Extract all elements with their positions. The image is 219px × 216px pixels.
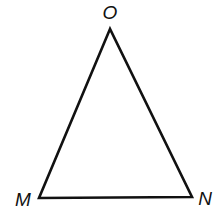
vertex-label-o: O [103, 2, 118, 23]
vertex-label-n: N [198, 188, 212, 209]
vertex-label-m: M [15, 189, 31, 210]
triangle-omn [39, 29, 192, 198]
triangle-diagram: O M N [0, 0, 219, 216]
